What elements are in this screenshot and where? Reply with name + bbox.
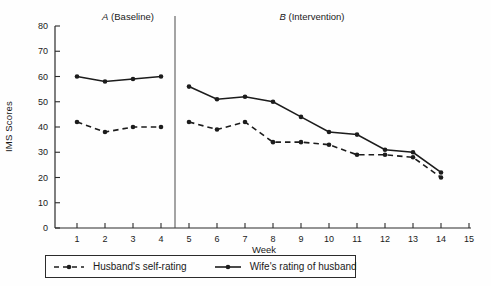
x-axis-ticks: 123456789101112131415: [74, 223, 474, 244]
phase-a-letter: A: [102, 11, 108, 22]
data-point-marker: [131, 77, 136, 82]
x-tick-label: 10: [324, 234, 334, 244]
legend-label-husband: Husband's self-rating: [93, 261, 187, 272]
data-point-marker: [383, 147, 388, 152]
data-point-marker: [355, 152, 360, 157]
series-wife: [75, 74, 444, 175]
chart-svg: 01020304050607080123456789101112131415: [0, 0, 491, 286]
data-point-marker: [187, 84, 192, 89]
legend-label-wife: Wife's rating of husband: [250, 261, 357, 272]
y-tick-label: 30: [38, 147, 48, 157]
x-tick-label: 15: [464, 234, 474, 244]
data-point-marker: [75, 74, 80, 79]
x-tick-label: 5: [186, 234, 191, 244]
axes: [55, 26, 471, 228]
data-point-marker: [103, 79, 108, 84]
legend-box: Husband's self-rating Wife's rating of h…: [45, 255, 356, 278]
data-point-marker: [159, 125, 164, 130]
y-tick-label: 70: [38, 46, 48, 56]
data-point-marker: [327, 142, 332, 147]
y-tick-label: 10: [38, 198, 48, 208]
data-point-marker: [215, 97, 220, 102]
y-tick-label: 80: [38, 21, 48, 31]
data-point-marker: [355, 132, 360, 137]
y-tick-label: 0: [43, 223, 48, 233]
data-point-marker: [299, 115, 304, 120]
data-point-marker: [131, 125, 136, 130]
data-point-marker: [299, 140, 304, 145]
x-tick-label: 9: [298, 234, 303, 244]
x-tick-label: 13: [408, 234, 418, 244]
x-tick-label: 14: [436, 234, 446, 244]
legend-entry-husband: Husband's self-rating: [53, 261, 187, 272]
x-tick-label: 4: [158, 234, 163, 244]
x-tick-label: 3: [130, 234, 135, 244]
x-tick-label: 8: [270, 234, 275, 244]
data-point-marker: [75, 120, 80, 125]
data-point-marker: [439, 175, 444, 180]
data-point-marker: [411, 155, 416, 160]
phase-a-label: A (Baseline): [102, 11, 154, 22]
x-tick-label: 2: [102, 234, 107, 244]
data-point-marker: [411, 150, 416, 155]
data-point-marker: [271, 99, 276, 104]
y-tick-label: 40: [38, 122, 48, 132]
ims-scores-figure: IMS Scores 01020304050607080123456789101…: [0, 0, 491, 286]
phase-b-letter: B: [280, 11, 286, 22]
y-tick-label: 20: [38, 173, 48, 183]
x-axis-title: Week: [252, 244, 276, 255]
data-point-marker: [187, 120, 192, 125]
phase-b-text: (Intervention): [289, 11, 345, 22]
data-point-marker: [103, 130, 108, 135]
x-tick-label: 12: [380, 234, 390, 244]
legend-entry-wife: Wife's rating of husband: [214, 261, 357, 272]
data-point-marker: [243, 120, 248, 125]
data-point-marker: [327, 130, 332, 135]
data-point-marker: [383, 152, 388, 157]
data-point-marker: [439, 170, 444, 175]
phase-b-label: B (Intervention): [280, 11, 345, 22]
x-tick-label: 7: [242, 234, 247, 244]
solid-line-marker-icon: [214, 262, 242, 272]
x-tick-label: 11: [352, 234, 361, 244]
data-point-marker: [271, 140, 276, 145]
dashed-line-marker-icon: [53, 262, 85, 272]
data-point-marker: [243, 94, 248, 99]
data-point-marker: [215, 127, 220, 132]
data-point-marker: [159, 74, 164, 79]
y-tick-label: 50: [38, 97, 48, 107]
x-tick-label: 6: [214, 234, 219, 244]
x-tick-label: 1: [74, 234, 79, 244]
phase-a-text: (Baseline): [111, 11, 154, 22]
y-tick-label: 60: [38, 72, 48, 82]
y-axis-ticks: 01020304050607080: [38, 21, 60, 233]
